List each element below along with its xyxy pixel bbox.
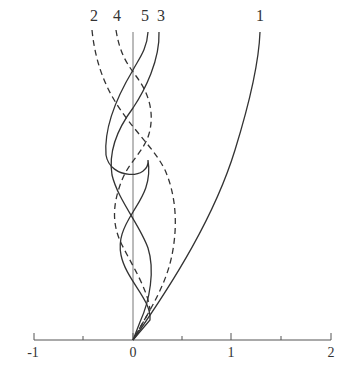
curve-diagram: -1 0 1 2 2 4 5 3 1	[0, 0, 351, 370]
x-axis-tick-labels: -1 0 1 2	[27, 345, 334, 360]
curve-label-2: 2	[90, 7, 98, 24]
tick-label-1: 1	[228, 345, 235, 360]
curve-1	[133, 32, 260, 340]
curve-3	[111, 32, 159, 340]
tick-label-neg1: -1	[27, 345, 39, 360]
curve-label-5: 5	[141, 7, 149, 24]
x-axis	[34, 333, 331, 340]
curve-label-1: 1	[256, 7, 264, 24]
curve-5	[106, 32, 150, 340]
curve-2	[92, 30, 175, 340]
tick-label-2: 2	[328, 345, 335, 360]
curve-label-3: 3	[157, 7, 165, 24]
tick-label-0: 0	[130, 345, 137, 360]
curve-label-4: 4	[113, 7, 121, 24]
diagram-canvas: -1 0 1 2 2 4 5 3 1	[0, 0, 351, 370]
